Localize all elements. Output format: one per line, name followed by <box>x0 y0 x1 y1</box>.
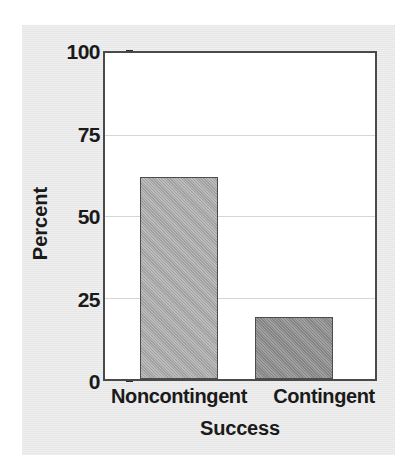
gridline-75 <box>105 135 375 136</box>
bar-contingent <box>255 317 333 379</box>
y-tick-label-75: 75 <box>38 123 100 144</box>
x-tick-label-noncontingent: Noncontingent <box>93 385 265 408</box>
x-tick-label-contingent: Contingent <box>245 385 403 408</box>
y-axis-title: Percent <box>29 164 52 284</box>
plot-area <box>103 51 377 381</box>
x-axis-title: Success <box>103 417 377 440</box>
bar-chart-figure: 100 75 50 25 0 Percent Noncontingent Con… <box>0 0 413 473</box>
y-tick-label-100: 100 <box>38 41 100 62</box>
y-tick-label-25: 25 <box>38 288 100 309</box>
bar-noncontingent <box>140 177 218 379</box>
y-tick-label-0: 0 <box>38 371 100 392</box>
